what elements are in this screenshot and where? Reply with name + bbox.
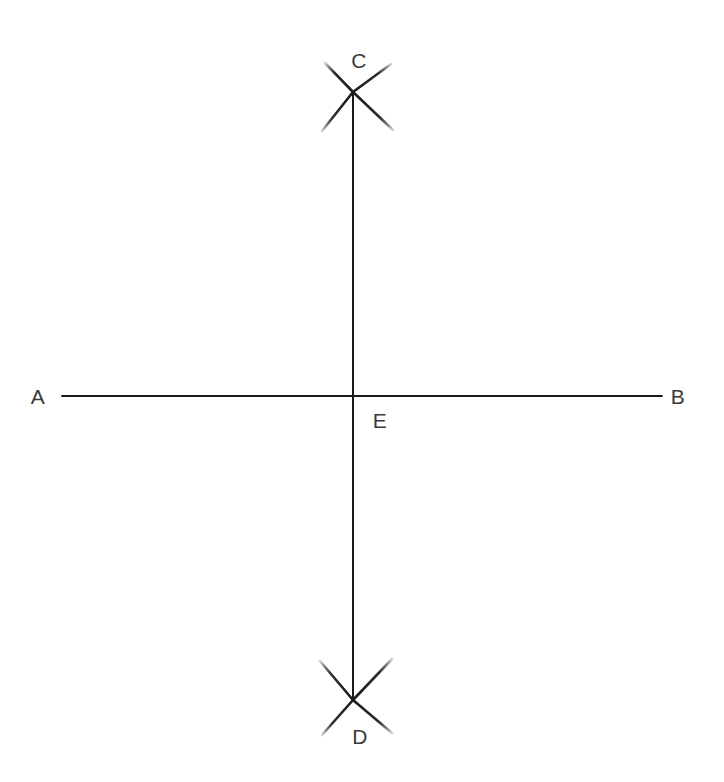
arc-stroke-c-lower-right bbox=[353, 92, 393, 130]
arc-stroke-d-lower-left bbox=[322, 700, 353, 735]
arc-stroke-c-lower-left bbox=[322, 92, 353, 131]
label-point-e: E bbox=[373, 409, 388, 432]
arc-stroke-c-upper-left bbox=[325, 63, 353, 92]
label-point-b: B bbox=[671, 385, 686, 408]
diagram-canvas: A B C D E bbox=[0, 0, 724, 782]
arc-cross-c bbox=[322, 63, 393, 131]
label-point-d: D bbox=[352, 725, 368, 748]
arc-cross-d bbox=[320, 659, 392, 735]
arc-stroke-d-upper-left bbox=[320, 661, 353, 700]
arc-stroke-d-upper-right bbox=[353, 659, 392, 700]
label-point-c: C bbox=[351, 49, 367, 72]
label-point-a: A bbox=[31, 385, 46, 408]
construction-figure: A B C D E bbox=[0, 0, 724, 782]
